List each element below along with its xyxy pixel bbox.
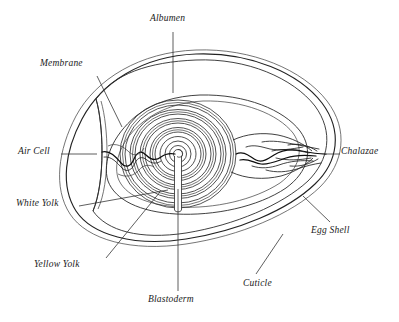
egg-cross-section-illustration: [0, 0, 399, 322]
label-white-yolk: White Yolk: [16, 199, 59, 209]
albumen-strand-upper: [233, 134, 312, 151]
leader-cuticle: [256, 234, 283, 274]
chalazae-right: [236, 141, 326, 172]
leader-egg-shell: [303, 196, 330, 222]
label-cuticle: Cuticle: [243, 279, 272, 289]
label-membrane: Membrane: [40, 59, 83, 69]
label-yellow-yolk: Yellow Yolk: [34, 260, 80, 270]
leader-membrane: [97, 76, 122, 127]
shell-membrane-line: [93, 60, 327, 235]
leader-yellow-yolk: [106, 192, 160, 258]
label-egg-shell: Egg Shell: [311, 226, 349, 236]
label-air-cell: Air Cell: [18, 147, 50, 157]
leader-lines: [61, 32, 340, 291]
label-chalazae: Chalazae: [341, 147, 379, 157]
air-cell-region: [93, 99, 102, 211]
label-blastoderm: Blastoderm: [148, 295, 194, 305]
egg-anatomy-diagram: Albumen Membrane Air Cell White Yolk Yel…: [0, 0, 399, 322]
label-albumen: Albumen: [150, 14, 185, 24]
